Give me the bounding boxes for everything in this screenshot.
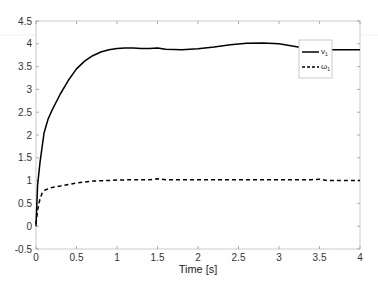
x-tick-label: 2.5 <box>232 252 246 263</box>
x-tick-label: 3.5 <box>313 252 327 263</box>
y-tick-label: 4 <box>26 38 32 49</box>
x-axis-title: Time [s] <box>179 263 218 275</box>
y-tick-label: 2.5 <box>18 107 32 118</box>
y-tick-label: 2 <box>26 130 32 141</box>
y-tick-label: -0.5 <box>15 244 33 255</box>
y-tick-label: 1 <box>26 175 32 186</box>
y-tick-label: 0 <box>26 221 32 232</box>
x-tick-label: 0 <box>33 252 39 263</box>
x-tick-label: 3 <box>276 252 282 263</box>
y-tick-label: 3 <box>26 84 32 95</box>
x-tick-label: 0.5 <box>70 252 84 263</box>
x-tick-label: 4 <box>357 252 363 263</box>
x-tick-label: 1.5 <box>151 252 165 263</box>
line-chart: 00.511.522.533.54 -0.500.511.522.533.544… <box>0 0 378 292</box>
legend: v1 ω1 <box>299 40 332 78</box>
y-tick-label: 0.5 <box>18 198 32 209</box>
y-tick-label: 3.5 <box>18 61 32 72</box>
x-tick-label: 1 <box>114 252 120 263</box>
y-tick-label: 1.5 <box>18 152 32 163</box>
x-tick-label: 2 <box>195 252 201 263</box>
legend-box <box>299 40 332 78</box>
y-tick-label: 4.5 <box>18 16 32 27</box>
